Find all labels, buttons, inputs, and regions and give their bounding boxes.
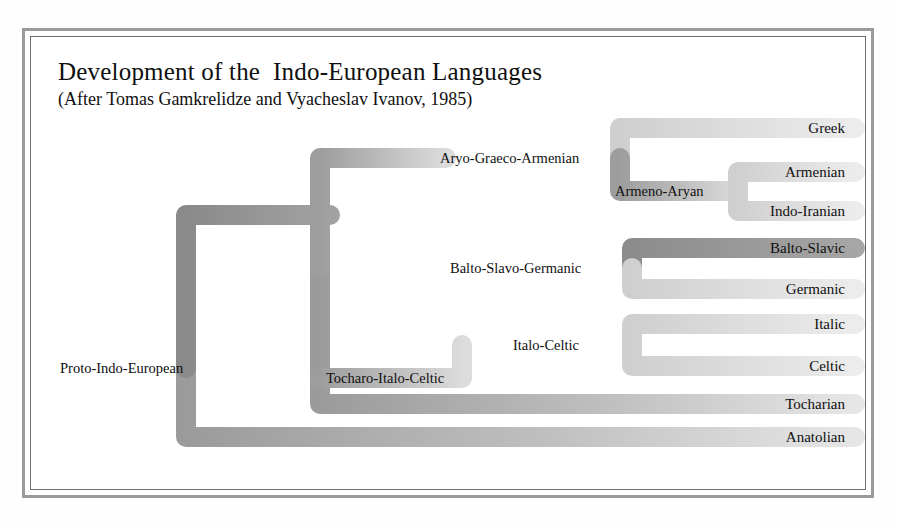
branch-core-upper <box>186 215 330 368</box>
leaf-label-tocharian: Tocharian <box>785 396 845 412</box>
node-label-tocharo-italo-celtic: Tocharo-Italo-Celtic <box>326 370 444 386</box>
node-label-proto-indo-european: Proto-Indo-European <box>60 360 184 376</box>
leaf-label-anatolian: Anatolian <box>786 429 846 445</box>
leaf-label-celtic: Celtic <box>809 358 845 374</box>
leaf-label-balto-slavic: Balto-Slavic <box>770 240 845 256</box>
leaf-label-germanic: Germanic <box>786 281 845 297</box>
leaf-label-indo-iranian: Indo-Iranian <box>770 203 845 219</box>
leaf-label-armenian: Armenian <box>785 164 845 180</box>
node-label-balto-slavo-germanic: Balto-Slavo-Germanic <box>450 260 581 276</box>
diagram-page: Development of the Indo-European Languag… <box>0 0 898 530</box>
cladogram-canvas: Proto-Indo-European Aryo-Graeco-Armenian… <box>0 0 898 530</box>
leaf-label-greek: Greek <box>808 120 845 136</box>
node-label-italo-celtic: Italo-Celtic <box>513 337 579 353</box>
node-label-armeno-aryan: Armeno-Aryan <box>615 183 704 199</box>
leaf-label-italic: Italic <box>814 316 845 332</box>
node-label-aryo-graeco-armenian: Aryo-Graeco-Armenian <box>440 150 580 166</box>
